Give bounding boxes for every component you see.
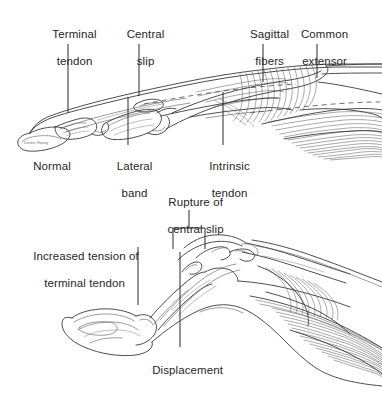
label-sagittal-fibers-line2: fibers: [255, 55, 284, 67]
label-rupture-line1: Rupture of: [168, 196, 223, 208]
label-terminal-tendon-line1: Terminal: [52, 28, 96, 40]
label-rupture-central-slip: Rupture of central slip: [150, 182, 228, 250]
label-common-extensor: Common extensor: [282, 14, 354, 82]
anatomical-figure: Dennis Hwang: [0, 0, 382, 393]
label-intrinsic-tendon-line1: Intrinsic: [209, 160, 250, 172]
label-increased-tension: Increased tension of terminal tendon: [20, 236, 136, 304]
label-central-slip-line1: Central: [127, 28, 165, 40]
label-displacement-lateral-band: Displacement of lateral band: [130, 350, 232, 393]
label-terminal-tendon-line2: tendon: [57, 55, 93, 67]
label-normal: Normal: [20, 146, 90, 187]
label-lateral-band-line2: band: [122, 187, 148, 199]
label-common-extensor-line1: Common: [301, 28, 348, 40]
label-increased-tension-line1: Increased tension of: [33, 250, 139, 262]
label-rupture-line2: central slip: [168, 223, 224, 235]
label-central-slip: Central slip: [105, 14, 173, 82]
label-terminal-tendon: Terminal tendon: [28, 14, 108, 82]
artist-signature-text: Dennis Hwang: [24, 141, 48, 145]
label-normal-text: Normal: [33, 160, 71, 172]
label-increased-tension-line2: terminal tendon: [44, 277, 125, 289]
label-central-slip-line2: slip: [137, 55, 155, 67]
label-displacement-line1: Displacement: [152, 364, 223, 376]
label-lateral-band-line1: Lateral: [117, 160, 153, 172]
label-common-extensor-line2: extensor: [302, 55, 347, 67]
